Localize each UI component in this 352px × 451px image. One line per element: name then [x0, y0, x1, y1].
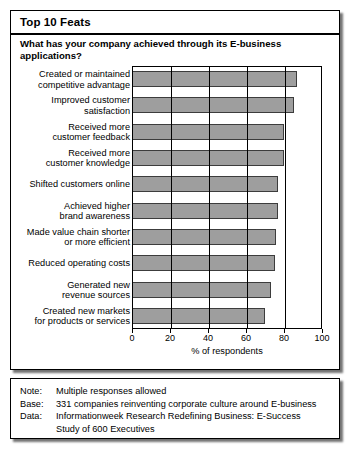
- bar-track: [132, 66, 322, 92]
- note-line: Data:Informationweek Research Redefining…: [20, 410, 316, 423]
- tick-label: 20: [165, 333, 175, 343]
- bar-track: [132, 171, 322, 197]
- bar-row: Improved customer satisfaction: [11, 92, 341, 118]
- bar: [132, 176, 278, 192]
- note-line: Base:331 companies reinventing corporate…: [20, 398, 316, 411]
- note-key: Data:: [20, 410, 56, 423]
- bar-category-label: Shifted customers online: [0, 179, 130, 189]
- tick-label: 80: [279, 333, 289, 343]
- chart-panel: Top 10 Feats What has your company achie…: [10, 10, 340, 370]
- bar-category-label: Achieved higher brand awareness: [0, 200, 130, 221]
- bar-track: [132, 197, 322, 223]
- tick-label: 40: [203, 333, 213, 343]
- bar: [132, 124, 284, 140]
- bar-track: [132, 250, 322, 276]
- note-key: Note:: [20, 385, 56, 398]
- bar-chart: Created or maintained competitive advant…: [11, 66, 341, 366]
- note-value: Multiple responses allowed: [56, 385, 316, 398]
- note-continuation: Study of 600 Executives: [20, 423, 316, 436]
- notes-list: Note:Multiple responses allowedBase:331 …: [20, 385, 316, 435]
- bar-row: Received more customer knowledge: [11, 145, 341, 171]
- title-divider: [11, 33, 339, 35]
- x-axis-ticks: 020406080100: [132, 329, 322, 343]
- bar-category-label: Made value chain shorter or more efficie…: [0, 227, 130, 248]
- bar-row: Created new markets for products or serv…: [11, 303, 341, 329]
- bar: [132, 97, 294, 113]
- bar-row: Shifted customers online: [11, 171, 341, 197]
- bar-row: Received more customer feedback: [11, 119, 341, 145]
- bar: [132, 150, 284, 166]
- bar-track: [132, 145, 322, 171]
- note-value: 331 companies reinventing corporate cult…: [56, 398, 316, 411]
- bar-row: Reduced operating costs: [11, 250, 341, 276]
- bar-category-label: Created new markets for products or serv…: [0, 305, 130, 326]
- bar-track: [132, 119, 322, 145]
- bar: [132, 229, 276, 245]
- bar-row: Generated new revenue sources: [11, 276, 341, 302]
- bar: [132, 203, 278, 219]
- bar-track: [132, 276, 322, 302]
- bar: [132, 71, 297, 87]
- bar-row: Made value chain shorter or more efficie…: [11, 224, 341, 250]
- tick-label: 100: [314, 333, 329, 343]
- bar-category-label: Received more customer feedback: [0, 121, 130, 142]
- bar: [132, 282, 271, 298]
- chart-subtitle: What has your company achieved through i…: [20, 38, 320, 61]
- bar-category-label: Received more customer knowledge: [0, 148, 130, 169]
- bar-row: Achieved higher brand awareness: [11, 197, 341, 223]
- note-line: Note:Multiple responses allowed: [20, 385, 316, 398]
- bar-category-label: Generated new revenue sources: [0, 279, 130, 300]
- bar-row: Created or maintained competitive advant…: [11, 66, 341, 92]
- x-axis-label: % of respondents: [132, 346, 322, 356]
- bar-category-label: Improved customer satisfaction: [0, 95, 130, 116]
- note-value: Informationweek Research Redefining Busi…: [56, 410, 316, 423]
- chart-figure: Top 10 Feats What has your company achie…: [0, 0, 352, 451]
- bar: [132, 255, 275, 271]
- bar-category-label: Created or maintained competitive advant…: [0, 69, 130, 90]
- bar-track: [132, 92, 322, 118]
- notes-panel: Note:Multiple responses allowedBase:331 …: [10, 378, 340, 439]
- bar: [132, 308, 265, 324]
- note-key: Base:: [20, 398, 56, 411]
- tick-label: 0: [129, 333, 134, 343]
- bar-category-label: Reduced operating costs: [0, 258, 130, 268]
- page-title: Top 10 Feats: [20, 16, 91, 28]
- bar-track: [132, 303, 322, 329]
- tick-label: 60: [241, 333, 251, 343]
- bar-rows: Created or maintained competitive advant…: [11, 66, 341, 329]
- bar-track: [132, 224, 322, 250]
